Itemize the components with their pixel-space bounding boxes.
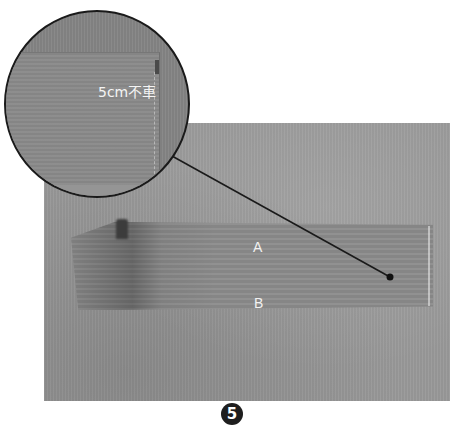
zoom-fabric-piece — [6, 52, 160, 186]
label-a: A — [253, 240, 262, 254]
fabric-strip-right-edge — [428, 226, 430, 306]
zoom-callout-label: 5cm不車 — [98, 85, 156, 99]
instruction-figure: A B 5cm不車 5 — [0, 0, 463, 446]
step-number-badge: 5 — [221, 403, 243, 425]
fabric-fold-tab — [116, 219, 128, 239]
zoom-callout-circle: 5cm不車 — [4, 10, 190, 198]
zoom-stitch-mark — [155, 60, 159, 74]
label-b: B — [254, 296, 263, 310]
